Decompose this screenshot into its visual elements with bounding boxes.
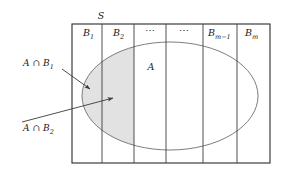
annotation-a-cap-b2-operator: ∩	[33, 123, 41, 133]
shaded-intersection-region	[82, 42, 258, 150]
column-label-bm-sub: m	[252, 33, 258, 41]
column-label-bm1-base: B	[207, 27, 215, 38]
column-label-b2-sub: 2	[119, 33, 124, 41]
column-label-bm1: Bm−1	[207, 27, 231, 41]
column-label-dots-2: ⋯	[179, 25, 190, 36]
label-sample-space: S	[98, 10, 105, 21]
column-label-bm: Bm	[244, 27, 258, 41]
annotation-a-cap-b2-prefix: A	[22, 123, 30, 133]
column-label-b1-base: B	[82, 27, 90, 38]
column-label-b2: B2	[112, 27, 124, 41]
arrow-to-a-cap-b1	[62, 69, 90, 89]
column-label-dots-1: ⋯	[145, 25, 156, 36]
annotation-a-cap-b2: A∩B2	[22, 123, 54, 136]
annotation-a-cap-b1: A∩B1	[22, 58, 54, 71]
column-labels: B1 B2 ⋯ ⋯ Bm−1 Bm	[82, 25, 258, 41]
annotation-a-cap-b1-sub: 1	[50, 63, 54, 71]
annotation-a-cap-b1-operator: ∩	[33, 58, 41, 68]
column-label-b1: B1	[82, 27, 94, 41]
column-label-bm1-sub: m−1	[215, 33, 231, 41]
column-label-b1-sub: 1	[90, 33, 94, 41]
column-label-bm-base: B	[244, 27, 252, 38]
annotation-a-cap-b1-prefix: A	[22, 58, 30, 68]
venn-diagram-canvas: S B1 B2 ⋯ ⋯ Bm−1 Bm A A∩B1	[0, 0, 285, 177]
annotation-a-cap-b2-sub: 2	[49, 128, 54, 136]
venn-partition-figure: S B1 B2 ⋯ ⋯ Bm−1 Bm A A∩B1	[0, 0, 285, 177]
label-event-a: A	[147, 61, 155, 72]
column-label-b2-base: B	[112, 27, 120, 38]
